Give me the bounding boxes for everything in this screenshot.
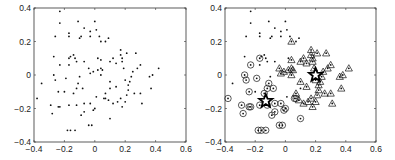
dot-marker xyxy=(121,57,123,59)
dot-marker xyxy=(54,36,56,38)
dot-marker xyxy=(73,93,75,95)
dot-marker xyxy=(59,106,61,108)
y-tick-label: −0.2 xyxy=(14,104,31,114)
dot-marker xyxy=(330,64,332,66)
dot-marker xyxy=(348,67,350,69)
dot-marker xyxy=(295,98,297,100)
dot-marker xyxy=(250,10,252,12)
dot-marker xyxy=(266,88,268,90)
dot-marker xyxy=(88,67,90,69)
dot-marker xyxy=(126,52,128,54)
dot-marker xyxy=(141,103,143,105)
dot-marker xyxy=(51,113,53,115)
dot-marker xyxy=(245,79,247,81)
dot-marker xyxy=(124,79,126,81)
dot-marker xyxy=(241,104,243,106)
dot-marker xyxy=(127,89,129,91)
y-tick-label: 0.4 xyxy=(210,3,222,13)
dot-marker xyxy=(274,111,276,113)
dot-marker xyxy=(59,64,61,66)
dot-marker xyxy=(95,96,97,98)
dot-marker xyxy=(331,103,333,105)
dot-marker xyxy=(268,82,270,84)
dot-marker xyxy=(68,64,70,66)
dot-marker xyxy=(274,103,276,105)
dot-marker xyxy=(269,37,271,39)
dot-marker xyxy=(109,81,111,83)
dot-marker xyxy=(136,67,138,69)
dot-marker xyxy=(74,57,76,59)
x-tick-label: 0.4 xyxy=(150,144,162,154)
dot-marker xyxy=(130,76,132,78)
dot-marker xyxy=(126,94,128,96)
dot-marker xyxy=(102,69,104,71)
dot-marker xyxy=(281,124,283,126)
dot-marker xyxy=(285,21,287,23)
dot-marker xyxy=(250,106,252,108)
dot-marker xyxy=(89,36,91,38)
dot-marker xyxy=(291,41,293,43)
dot-marker xyxy=(120,54,122,56)
dot-marker xyxy=(120,49,122,51)
dot-marker xyxy=(98,36,100,38)
dot-marker xyxy=(54,79,56,81)
dot-marker xyxy=(97,69,99,71)
dot-marker xyxy=(292,69,294,71)
dot-marker xyxy=(250,64,252,66)
dot-marker xyxy=(74,129,76,131)
dot-marker xyxy=(127,84,129,86)
dot-marker xyxy=(68,104,70,106)
dot-marker xyxy=(92,71,94,73)
dot-marker xyxy=(244,56,246,58)
x-tick-label: −0.2 xyxy=(56,144,73,154)
axes-frame xyxy=(34,8,186,142)
dot-marker xyxy=(129,81,131,83)
dot-marker xyxy=(259,36,261,38)
dot-marker xyxy=(94,21,96,23)
dot-marker xyxy=(259,104,261,106)
dot-marker xyxy=(92,109,94,111)
dot-marker xyxy=(289,36,291,38)
dot-marker xyxy=(83,103,85,105)
dot-marker xyxy=(291,74,293,76)
dot-marker xyxy=(245,36,247,38)
dot-marker xyxy=(303,57,305,59)
x-tick-label: 0.6 xyxy=(370,144,382,154)
dot-marker xyxy=(152,74,154,76)
dot-marker xyxy=(295,41,297,43)
dot-marker xyxy=(265,129,267,131)
dot-marker xyxy=(100,41,102,43)
dot-marker xyxy=(76,104,78,106)
dot-marker xyxy=(259,57,261,59)
dot-marker xyxy=(242,113,244,115)
dot-marker xyxy=(244,74,246,76)
dot-marker xyxy=(283,109,285,111)
dot-marker xyxy=(274,61,276,63)
dot-marker xyxy=(57,91,59,93)
dot-marker xyxy=(280,103,282,105)
dot-marker xyxy=(89,103,91,105)
dot-marker xyxy=(100,67,102,69)
dot-marker xyxy=(150,88,152,90)
dot-marker xyxy=(269,76,271,78)
dot-marker xyxy=(306,86,308,88)
dot-marker xyxy=(310,49,312,51)
dot-marker xyxy=(105,41,107,43)
y-tick-label: 0 xyxy=(26,70,31,80)
dot-marker xyxy=(115,86,117,88)
dot-marker xyxy=(316,52,318,54)
dot-marker xyxy=(316,94,318,96)
dot-marker xyxy=(108,99,110,101)
dot-marker xyxy=(109,61,111,63)
dot-marker xyxy=(77,21,79,23)
dot-marker xyxy=(79,76,81,78)
dot-marker xyxy=(121,106,123,108)
dot-marker xyxy=(100,59,102,61)
dot-marker xyxy=(59,22,61,24)
x-tick-label: −0.2 xyxy=(247,144,264,154)
dot-marker xyxy=(70,129,72,131)
dot-marker xyxy=(77,82,79,84)
dot-marker xyxy=(80,114,82,116)
dot-marker xyxy=(68,36,70,38)
y-tick-label: 0.2 xyxy=(19,37,31,47)
